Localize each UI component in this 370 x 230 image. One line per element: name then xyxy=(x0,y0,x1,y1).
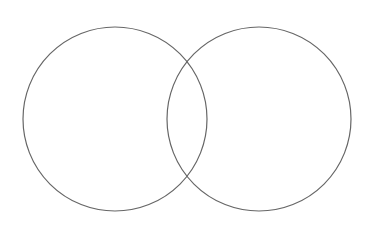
venn-circle-right xyxy=(167,27,351,211)
venn-circle-left xyxy=(23,27,207,211)
venn-diagram xyxy=(0,0,370,230)
